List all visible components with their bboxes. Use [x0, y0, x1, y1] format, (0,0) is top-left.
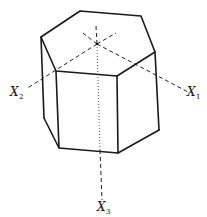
bottom-edges: [44, 118, 159, 153]
svg-text:X: X: [9, 85, 19, 99]
axis-x3-hidden: [97, 44, 100, 150]
svg-text:1: 1: [196, 93, 200, 101]
vertical-edge-2: [56, 71, 59, 148]
axis-x3: [100, 150, 102, 200]
svg-text:3: 3: [106, 208, 110, 216]
axis-x1-back: [83, 33, 97, 44]
vertical-edge-4: [155, 52, 159, 130]
vertical-edge-3: [117, 76, 118, 153]
svg-text:X: X: [186, 85, 196, 99]
svg-text:X: X: [96, 200, 106, 214]
label-x2: X 2: [9, 85, 23, 101]
svg-text:2: 2: [19, 93, 23, 101]
label-x3: X 3: [96, 200, 110, 216]
axis-x3-top: [96, 26, 97, 44]
label-x1: X 1: [186, 85, 200, 101]
axis-x2-back: [97, 33, 116, 44]
hexagonal-prism-diagram: X 2 X 1 X 3: [0, 0, 207, 217]
center-point: [96, 43, 99, 46]
axis-x1: [97, 44, 188, 92]
axes: [26, 26, 188, 200]
prism-edges: [41, 11, 159, 153]
axis-x2: [26, 44, 97, 89]
